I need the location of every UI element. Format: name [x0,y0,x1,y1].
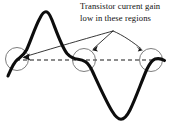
annotation-callout: Transistor current gain low in these reg… [80,1,180,24]
annotation-line-1: Transistor current gain [80,1,180,13]
arrow-to-right-region [113,31,141,49]
annotation-line-2: low in these regions [80,13,180,25]
arrow-to-middle-region-head [92,46,98,52]
figure-canvas: Transistor current gain low in these reg… [0,0,180,132]
arrow-to-left-region [25,31,114,57]
